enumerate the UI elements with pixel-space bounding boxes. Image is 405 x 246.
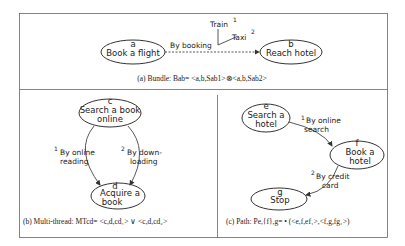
- node-b-label: Reach hotel: [266, 48, 316, 58]
- edge-f-g-index: 2: [311, 169, 315, 176]
- edge-label-by-booking: By booking: [170, 41, 212, 50]
- node-c-label-2: online: [97, 114, 123, 124]
- node-f-label-2: hotel: [349, 156, 371, 166]
- panel-bundle: a Book a flight b Reach hotel By booking…: [101, 16, 322, 83]
- edge-e-f-label-2: search: [304, 125, 329, 134]
- diagram-canvas: a Book a flight b Reach hotel By booking…: [0, 0, 405, 246]
- option-train-index: 1: [233, 16, 237, 23]
- caption-multithread: (b) Multi-thread: MTcd= <c,d,cd₁> ∨ <c,d…: [23, 217, 167, 226]
- caption-path: (c) Path: Pe,{f},g= • (<e,f,ef₁>,<f,g,fg…: [226, 217, 350, 226]
- edge-1-index: 1: [54, 145, 58, 152]
- node-g-label: Stop: [270, 195, 289, 205]
- node-d-label-2: book: [102, 197, 123, 207]
- option-taxi: Taxi: [231, 33, 246, 42]
- edge-1-label-2: reading: [60, 157, 89, 166]
- edge-1-label-1: By online: [60, 148, 95, 157]
- panel-path: e Search a hotel f Book a hotel g Stop 1…: [226, 101, 384, 226]
- option-train: Train: [209, 20, 228, 29]
- node-e-label-2: hotel: [255, 119, 277, 129]
- edge-2-label-2: loading: [130, 157, 158, 166]
- caption-bundle: (a) Bundle: Bab= <a,b,Sab1>⊗<a,b,Sab2>: [137, 74, 267, 83]
- node-a-label: Book a flight: [106, 48, 160, 58]
- edge-e-f-index: 1: [301, 114, 305, 121]
- option-taxi-index: 2: [251, 28, 255, 35]
- edge-e-f-label-1: By online: [306, 116, 341, 125]
- edge-f-g-label-1: By credit: [316, 172, 349, 181]
- panel-multithread: c Search a book online d Acquire a book …: [23, 96, 167, 226]
- edge-2-label-1: By down-: [127, 148, 162, 157]
- edge-f-g-label-2: card: [322, 181, 339, 190]
- edge-2-index: 2: [121, 145, 125, 152]
